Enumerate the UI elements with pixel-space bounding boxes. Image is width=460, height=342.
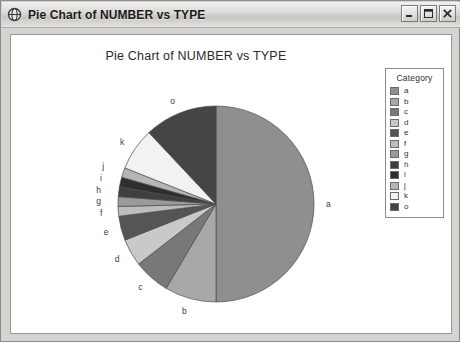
chart-client-area: Pie Chart of NUMBER vs TYPE abcdefghijko…	[10, 34, 452, 334]
globe-icon	[7, 7, 22, 22]
legend-item-label: k	[404, 192, 408, 200]
pie-slice-label-c: c	[138, 282, 143, 292]
legend-swatch	[390, 171, 399, 179]
legend-item[interactable]: e	[390, 128, 439, 139]
legend-swatch	[390, 203, 399, 211]
legend-item[interactable]: i	[390, 170, 439, 181]
window-controls	[401, 5, 456, 22]
legend-title: Category	[390, 73, 439, 83]
window-titlebar[interactable]: Pie Chart of NUMBER vs TYPE	[2, 2, 460, 28]
legend-item[interactable]: d	[390, 118, 439, 129]
legend-item-label: e	[404, 129, 408, 137]
application-window: Pie Chart of NUMBER vs TYPE	[0, 0, 460, 342]
chart-legend: Category abcdefghijko	[385, 68, 444, 218]
legend-swatch	[390, 87, 399, 95]
legend-item-label: o	[404, 203, 408, 211]
pie-slice-label-d: d	[115, 254, 120, 264]
legend-item-label: b	[404, 98, 408, 106]
pie-slice-label-a: a	[326, 199, 331, 209]
legend-item[interactable]: b	[390, 97, 439, 108]
pie-slice-label-f: f	[100, 208, 103, 218]
legend-item-label: f	[404, 140, 406, 148]
legend-item[interactable]: o	[390, 202, 439, 213]
pie-slice-label-i: i	[100, 173, 102, 183]
legend-swatch	[390, 161, 399, 169]
legend-item-label: j	[404, 182, 406, 190]
pie-slice-label-h: h	[96, 185, 101, 195]
legend-item[interactable]: a	[390, 86, 439, 97]
pie-chart: abcdefghijko	[11, 35, 381, 334]
legend-item-label: a	[404, 87, 408, 95]
legend-item-label: d	[404, 119, 408, 127]
legend-item-label: c	[404, 108, 408, 116]
maximize-button[interactable]	[420, 5, 437, 22]
legend-item-label: h	[404, 161, 408, 169]
pie-slice-label-e: e	[104, 227, 109, 237]
pie-slice-label-j: j	[101, 161, 104, 171]
legend-swatch	[390, 140, 399, 148]
legend-swatch	[390, 182, 399, 190]
legend-item-label: g	[404, 150, 408, 158]
pie-chart-svg: abcdefghijko	[11, 35, 381, 334]
pie-slice-a[interactable]	[216, 106, 314, 302]
legend-item-label: i	[404, 171, 406, 179]
pie-slice-group	[118, 106, 314, 302]
legend-item[interactable]: f	[390, 139, 439, 150]
close-button[interactable]	[439, 5, 456, 22]
pie-slice-label-o: o	[170, 96, 175, 106]
window-title: Pie Chart of NUMBER vs TYPE	[28, 8, 205, 22]
pie-slice-label-g: g	[96, 196, 101, 206]
pie-slice-label-b: b	[182, 306, 187, 316]
legend-swatch	[390, 119, 399, 127]
pie-slice-label-k: k	[120, 137, 125, 147]
legend-item[interactable]: j	[390, 181, 439, 192]
legend-items: abcdefghijko	[390, 86, 439, 212]
legend-item[interactable]: h	[390, 160, 439, 171]
legend-swatch	[390, 108, 399, 116]
legend-item[interactable]: k	[390, 191, 439, 202]
legend-swatch	[390, 150, 399, 158]
legend-swatch	[390, 129, 399, 137]
legend-swatch	[390, 192, 399, 200]
legend-item[interactable]: g	[390, 149, 439, 160]
minimize-button[interactable]	[401, 5, 418, 22]
legend-item[interactable]: c	[390, 107, 439, 118]
legend-swatch	[390, 98, 399, 106]
